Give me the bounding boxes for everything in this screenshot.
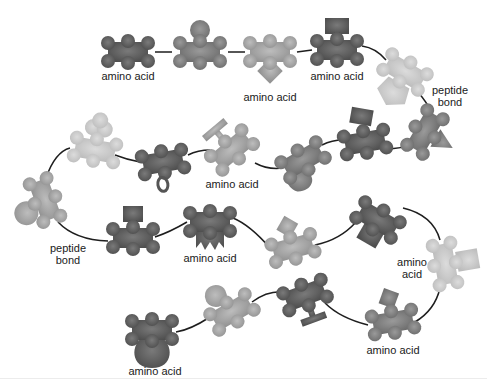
polypeptide-diagram: amino acid amino acid amino acid peptide… (0, 0, 487, 385)
amino-acid-3 (243, 34, 297, 84)
amino-acid-9 (192, 110, 264, 181)
diagram-canvas (0, 0, 487, 385)
amino-acid-20 (192, 270, 264, 341)
amino-acid-label-2: amino acid (243, 91, 296, 103)
peptide-bond-label-1-line1: peptide (432, 84, 468, 96)
amino-acid-11 (65, 108, 128, 173)
amino-acid-13 (106, 206, 160, 256)
amino-acid-label-8: amino acid (128, 365, 181, 377)
bond-15-16 (315, 222, 356, 245)
bond-18-19 (325, 303, 368, 325)
amino-acid-21 (125, 312, 179, 368)
amino-acid-10 (133, 140, 194, 196)
amino-acid-16 (342, 191, 411, 256)
amino-acid-label-4: amino acid (205, 178, 258, 190)
amino-acid-17 (423, 232, 484, 294)
bond-12-13 (58, 222, 108, 241)
bond-17-18 (415, 288, 440, 322)
amino-acid-1 (101, 34, 155, 70)
amino-acid-label-3: amino acid (310, 70, 363, 82)
amino-acid-label-5: amino acid (183, 252, 236, 264)
peptide-bond-label-1: peptide bond (432, 84, 468, 108)
amino-acid-18 (360, 283, 422, 345)
amino-acid-19 (273, 269, 340, 332)
amino-acid-4 (310, 18, 364, 68)
amino-acid-15 (258, 209, 323, 273)
amino-acid-label-6: amino acid (397, 256, 427, 280)
bottom-divider (0, 378, 487, 379)
amino-acid-label-7: amino acid (366, 344, 419, 356)
bond-20-21 (176, 317, 210, 332)
amino-acid-14 (183, 204, 237, 250)
peptide-bond-label-2-line2: bond (50, 254, 86, 266)
bond-3-4 (297, 50, 312, 52)
peptide-bond-label-2-line1: peptide (50, 242, 86, 254)
peptide-bond-label-1-line2: bond (432, 96, 468, 108)
amino-acid-label-6-line1: amino (397, 256, 427, 268)
amino-acid-6 (396, 100, 466, 172)
peptide-bond-label-2: peptide bond (50, 242, 86, 266)
amino-acid-7 (332, 101, 395, 164)
amino-acid-label-1: amino acid (101, 70, 154, 82)
amino-acid-label-6-line2: acid (397, 268, 427, 280)
bond-16-17 (403, 208, 440, 240)
bond-4-5 (362, 46, 386, 60)
amino-acid-2 (173, 20, 227, 70)
amino-acid-12 (4, 168, 71, 237)
